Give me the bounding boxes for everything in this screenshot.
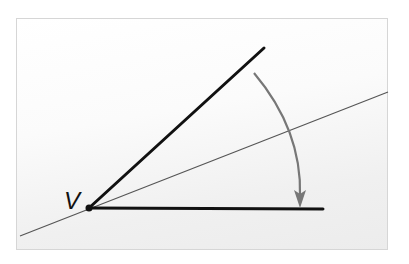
vertex-point [86, 205, 93, 212]
vertex-label: V [64, 187, 82, 214]
diagram-canvas: V [0, 0, 409, 264]
reference-line [20, 92, 388, 236]
initial-ray [89, 48, 264, 208]
rotation-arrow [254, 73, 300, 196]
angle-diagram: V [0, 0, 409, 264]
terminal-ray [89, 208, 323, 209]
